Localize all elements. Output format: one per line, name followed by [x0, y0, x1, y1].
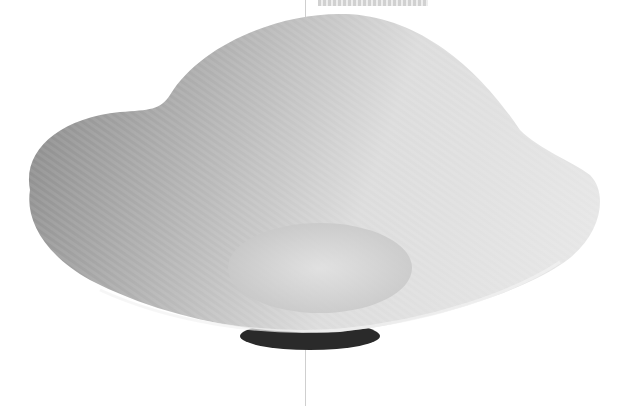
dish-photo [0, 0, 622, 406]
dish-well [228, 223, 412, 313]
